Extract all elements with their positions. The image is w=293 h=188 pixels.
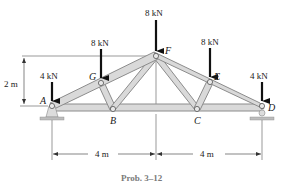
load-label-E: 8 kN (201, 37, 219, 47)
pin-D (259, 103, 264, 108)
load-label-A: 4 kN (40, 71, 58, 81)
joint-label-A: A (39, 95, 47, 106)
joint-label-D: D (267, 102, 276, 113)
joint-label-C: C (194, 115, 201, 126)
member-AF (50, 52, 158, 109)
pin-B (110, 106, 115, 111)
pin-F (153, 53, 158, 58)
joint-label-B: B (110, 115, 116, 126)
pin-A (49, 103, 54, 108)
truss-figure: 4 kN 8 kN 8 kN 8 kN 4 kN A G F E D B C 2… (0, 0, 293, 188)
joint-label-E: E (213, 71, 220, 82)
member-bottom-chord (52, 104, 262, 111)
pin-C (194, 106, 199, 111)
dimension-span-left: 4 m (95, 149, 109, 159)
load-label-F: 8 kN (145, 8, 163, 18)
truss-members (50, 52, 264, 111)
figure-caption: Prob. 3–12 (121, 173, 163, 183)
load-label-G: 8 kN (91, 38, 109, 48)
joint-label-G: G (89, 71, 96, 82)
load-label-D: 4 kN (250, 71, 268, 81)
joint-label-F: F (164, 45, 172, 56)
dimension-span-right: 4 m (200, 149, 214, 159)
dimension-height: 2 m (4, 79, 18, 89)
pin-E (207, 79, 212, 84)
pin-G (98, 80, 103, 85)
